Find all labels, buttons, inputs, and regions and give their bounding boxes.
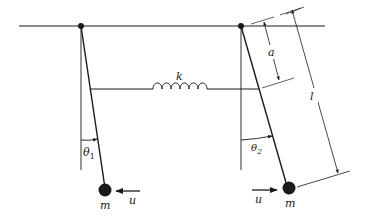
force-left-label: u bbox=[129, 194, 136, 207]
spring-coil bbox=[153, 83, 207, 89]
force-right-label: u bbox=[255, 193, 262, 206]
l-label: l bbox=[310, 90, 314, 103]
dimension-l: l bbox=[286, 7, 350, 187]
a-label: a bbox=[268, 46, 275, 59]
right-rod bbox=[241, 26, 287, 186]
left-pivot bbox=[78, 23, 84, 29]
left-mass bbox=[99, 184, 112, 197]
l-extension-bottom bbox=[297, 171, 350, 187]
l-extension-top bbox=[286, 7, 304, 14]
left-rod bbox=[81, 26, 105, 188]
theta2-arc bbox=[241, 136, 272, 140]
mass-right-label: m bbox=[285, 197, 295, 210]
theta1-label: θ1 bbox=[83, 146, 95, 161]
right-pivot bbox=[238, 23, 244, 29]
spring: k bbox=[90, 70, 259, 89]
pendulum-diagram: θ1 m u θ2 m u k a l bbox=[0, 0, 369, 216]
a-extension-bottom bbox=[262, 78, 294, 88]
a-extension-top bbox=[251, 17, 274, 24]
mass-left-label: m bbox=[100, 199, 110, 212]
left-pendulum: θ1 m u bbox=[78, 23, 140, 212]
right-mass bbox=[283, 182, 296, 195]
diagram-canvas: θ1 m u θ2 m u k a l bbox=[0, 0, 369, 216]
theta2-label: θ2 bbox=[251, 142, 262, 156]
dimension-a: a bbox=[251, 8, 301, 88]
theta1-arc bbox=[81, 139, 97, 140]
spring-constant-label: k bbox=[176, 70, 183, 83]
